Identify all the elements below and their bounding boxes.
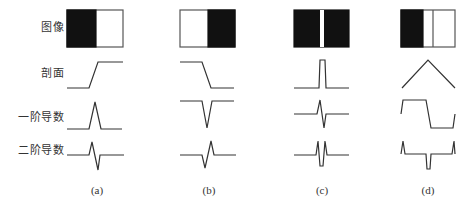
column-d [401, 10, 455, 169]
first-derivative-d [401, 100, 455, 128]
image-c [294, 10, 349, 47]
image-a [67, 10, 123, 47]
diagram-canvas [0, 0, 463, 204]
second-derivative-b [180, 141, 236, 168]
first-derivative-c [294, 100, 349, 128]
first-derivative-a [67, 102, 122, 129]
column-a [67, 10, 124, 170]
image-d [401, 10, 455, 47]
profile-b [180, 62, 234, 88]
second-derivative-a [67, 142, 124, 170]
profile-c [294, 60, 349, 88]
caption-d: (d) [413, 183, 443, 197]
caption-a: (a) [82, 183, 112, 197]
second-derivative-d [401, 141, 455, 169]
first-derivative-b [180, 101, 234, 128]
caption-b: (b) [194, 183, 224, 197]
image-b [180, 10, 235, 47]
column-b [180, 10, 236, 168]
profile-a [67, 62, 123, 88]
column-c [294, 10, 349, 166]
second-derivative-c [294, 141, 349, 166]
edge-derivative-figure: 图像 剖面 一阶导数 二阶导数 [0, 0, 463, 204]
profile-d [402, 60, 455, 88]
caption-c: (c) [307, 183, 337, 197]
